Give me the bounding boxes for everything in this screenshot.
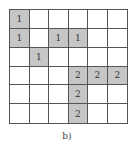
grid-cell: 2: [108, 67, 128, 86]
grid-cell: 2: [69, 67, 89, 86]
grid-cell: 2: [69, 85, 89, 104]
grid-cell: [49, 67, 69, 86]
grid-cell: [49, 48, 69, 67]
grid-cell: [30, 29, 50, 48]
grid-cell: 1: [10, 10, 30, 29]
grid-cell: [88, 85, 108, 104]
grid-cell: 1: [10, 29, 30, 48]
grid-cell: [49, 85, 69, 104]
grid-cell: [10, 67, 30, 86]
grid-cell: [108, 104, 128, 123]
grid-cell: [88, 48, 108, 67]
grid-cell: [49, 104, 69, 123]
grid-cell: [108, 48, 128, 67]
grid-cell: [30, 85, 50, 104]
grid-cell: 1: [30, 48, 50, 67]
grid-cell: [10, 85, 30, 104]
grid-cell: 1: [69, 29, 89, 48]
grid-cell: [30, 10, 50, 29]
grid-cell: [49, 10, 69, 29]
grid-cell: [88, 10, 108, 29]
grid-cell: [88, 104, 108, 123]
grid-cell: [10, 104, 30, 123]
grid-cell: 2: [69, 104, 89, 123]
grid-cell: [69, 48, 89, 67]
grid-cell: [108, 85, 128, 104]
grid-cell: [10, 48, 30, 67]
grid-cell: 2: [88, 67, 108, 86]
grid-cell: [108, 10, 128, 29]
figure-caption: b): [0, 131, 134, 141]
grid-cell: [30, 104, 50, 123]
grid-cell: [69, 10, 89, 29]
grid-cell: [88, 29, 108, 48]
grid-cell: 1: [49, 29, 69, 48]
labeled-grid: 1111122222: [9, 9, 128, 124]
grid-cell: [108, 29, 128, 48]
grid-cell: [30, 67, 50, 86]
